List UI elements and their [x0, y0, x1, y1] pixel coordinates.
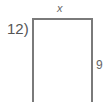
rectangle-left-edge: [32, 18, 34, 102]
rectangle-right-edge: [91, 18, 93, 102]
problem-number: 12): [7, 20, 29, 37]
right-side-label: 9: [96, 58, 103, 72]
rectangle-top-edge: [32, 18, 93, 20]
top-side-label: x: [57, 2, 63, 14]
